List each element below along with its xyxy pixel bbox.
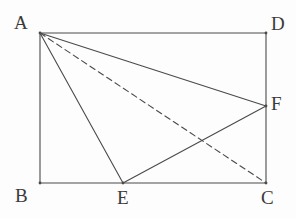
- segment-layer: [40, 33, 266, 183]
- vertex-label-e: E: [117, 188, 129, 207]
- geometry-canvas: [0, 0, 296, 219]
- segment-ac-dashed: [40, 33, 266, 183]
- vertex-label-f: F: [271, 94, 282, 113]
- vertex-dot-b: [39, 182, 42, 185]
- vertex-label-a: A: [14, 13, 28, 32]
- vertex-dot-c: [265, 182, 268, 185]
- vertex-label-d: D: [271, 14, 285, 33]
- vertex-dot-f: [265, 105, 268, 108]
- vertex-label-c: C: [261, 188, 274, 207]
- vertex-dot-e: [122, 182, 125, 185]
- geometry-figure: ADBCEF: [0, 0, 296, 219]
- vertex-dot-d: [265, 32, 268, 35]
- vertex-label-b: B: [15, 186, 28, 205]
- vertex-dot-a: [39, 32, 42, 35]
- segment-ef: [123, 106, 266, 183]
